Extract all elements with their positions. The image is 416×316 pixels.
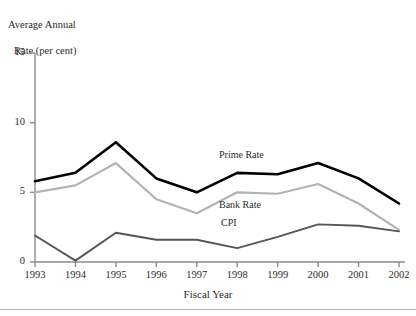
x-axis-tick-label: 1995: [93, 269, 139, 280]
x-axis-tick-label: 1996: [133, 269, 179, 280]
series-line-prime-rate: [35, 142, 399, 203]
x-axis-tick-label: 1993: [12, 269, 58, 280]
x-axis-tick-label: 2000: [295, 269, 341, 280]
series-label-cpi: CPI: [221, 217, 237, 228]
series-group: [35, 142, 399, 260]
series-line-cpi: [35, 224, 399, 260]
x-axis-tick-label: 1999: [255, 269, 301, 280]
x-axis-title: Fiscal Year: [0, 288, 416, 300]
x-axis-tick-label: 1998: [214, 269, 260, 280]
chart-figure: Average Annual Rate (per cent) 051015199…: [0, 0, 416, 316]
axes-group: [30, 53, 405, 267]
x-axis-tick-label: 2001: [336, 269, 382, 280]
bottom-divider: [0, 309, 416, 310]
y-axis-tick-label: 5: [1, 185, 25, 196]
x-axis-tick-label: 2002: [376, 269, 416, 280]
series-label-bank-rate: Bank Rate: [219, 199, 261, 210]
series-label-prime-rate: Prime Rate: [219, 149, 264, 160]
y-axis-tick-label: 15: [1, 46, 25, 57]
y-axis-tick-label: 10: [1, 116, 25, 127]
x-axis-tick-label: 1994: [52, 269, 98, 280]
x-axis-tick-label: 1997: [174, 269, 220, 280]
y-axis-tick-label: 0: [1, 255, 25, 266]
